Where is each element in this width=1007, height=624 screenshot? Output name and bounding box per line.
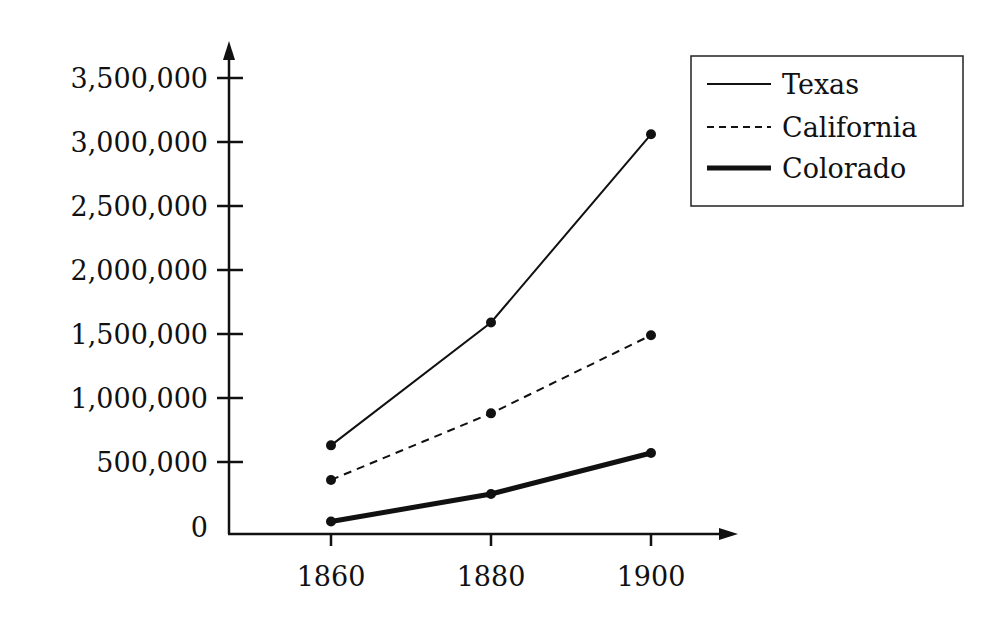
legend: Texas California Colorado (691, 56, 963, 206)
data-point (646, 330, 656, 340)
x-axis-arrow-icon (719, 528, 738, 540)
series-group (326, 129, 656, 526)
y-tick-label: 2,500,000 (71, 191, 208, 222)
y-axis-arrow-icon (223, 41, 235, 60)
legend-label: California (782, 112, 917, 143)
x-tick-label: 1860 (297, 561, 366, 592)
y-tick-label: 0 (191, 512, 208, 543)
line-chart: 0500,0001,000,0001,500,0002,000,0002,500… (0, 0, 1007, 624)
y-tick-label: 2,000,000 (71, 255, 208, 286)
y-tick-label: 3,000,000 (71, 127, 208, 158)
x-tick-label: 1880 (457, 561, 526, 592)
data-point (646, 448, 656, 458)
legend-label: Texas (782, 69, 859, 100)
y-ticks: 0500,0001,000,0001,500,0002,000,0002,500… (71, 63, 243, 543)
data-point (486, 317, 496, 327)
y-tick-label: 1,500,000 (71, 319, 208, 350)
x-ticks: 186018801900 (297, 534, 686, 592)
data-point (486, 489, 496, 499)
x-axis (228, 528, 738, 540)
y-tick-label: 500,000 (96, 447, 208, 478)
data-point (486, 408, 496, 418)
x-tick-label: 1900 (617, 561, 686, 592)
series-line-colorado (331, 453, 651, 521)
series-line-texas (331, 134, 651, 445)
y-tick-label: 3,500,000 (71, 63, 208, 94)
y-tick-label: 1,000,000 (71, 383, 208, 414)
y-axis (223, 41, 235, 534)
data-point (326, 475, 336, 485)
legend-label: Colorado (782, 153, 906, 184)
data-point (646, 129, 656, 139)
data-point (326, 440, 336, 450)
data-point (326, 517, 336, 527)
